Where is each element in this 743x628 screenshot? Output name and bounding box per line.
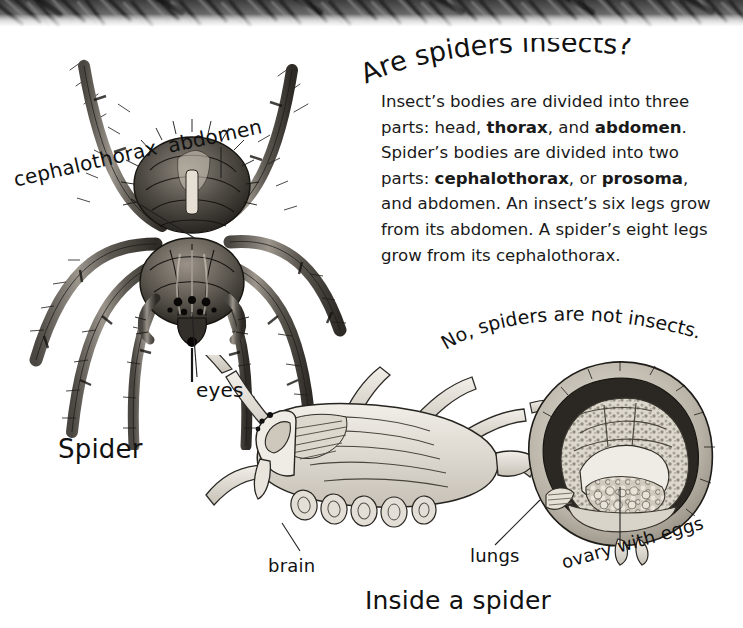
term-bold: abdomen (595, 118, 682, 137)
answer-callout: No, spiders are not insects. (440, 308, 740, 372)
term-bold: cephalothorax (435, 169, 569, 188)
answer-text: No, spiders are not insects. (440, 308, 704, 353)
label-brain: brain (268, 555, 315, 576)
text-run: , and (548, 118, 595, 137)
term-bold: prosoma (602, 169, 683, 188)
label-lungs: lungs (470, 545, 520, 566)
term-bold: thorax (487, 118, 548, 137)
label-spider: Spider (58, 434, 143, 464)
figure-caption-inside-a-spider: Inside a spider (365, 586, 551, 615)
label-eyes: eyes (196, 378, 244, 402)
intro-paragraph: Insect’s bodies are divided into three p… (381, 89, 711, 268)
text-run: , or (569, 169, 602, 188)
page-title-text: Are spiders insects? (360, 38, 633, 89)
page-root: Are spiders insects? Insect’s bodies are… (0, 0, 743, 628)
